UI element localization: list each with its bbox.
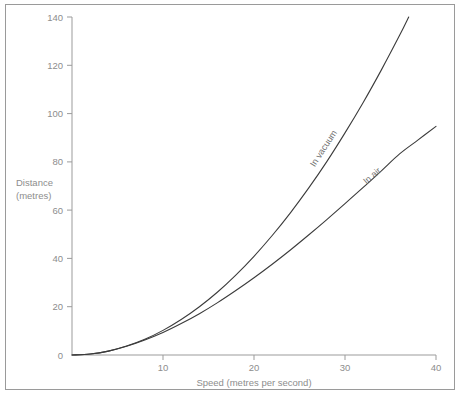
curve-label-in-vacuum: In vacuum — [308, 128, 339, 168]
y-tick-label-0: 0 — [58, 350, 63, 361]
y-tick-label-40: 40 — [52, 253, 63, 264]
x-tick-marks — [163, 355, 436, 360]
curve-in-air-plot — [72, 126, 436, 355]
distance-vs-speed-chart: 140 120 100 80 60 40 20 0 10 20 30 40 Di… — [0, 0, 466, 404]
x-tick-label-30: 30 — [340, 362, 351, 373]
x-tick-label-40: 40 — [431, 362, 442, 373]
y-tick-label-100: 100 — [47, 108, 63, 119]
x-axis-title: Speed (metres per second) — [196, 377, 311, 388]
y-tick-label-120: 120 — [47, 60, 63, 71]
x-tick-labels: 10 20 30 40 — [158, 362, 442, 373]
curve-label-in-air: In air — [361, 165, 383, 186]
x-tick-label-10: 10 — [158, 362, 169, 373]
x-tick-label-20: 20 — [249, 362, 260, 373]
y-tick-label-20: 20 — [52, 301, 63, 312]
y-axis-title-line2: (metres) — [16, 190, 51, 201]
y-tick-marks — [67, 17, 72, 307]
y-tick-label-60: 60 — [52, 205, 63, 216]
y-tick-label-80: 80 — [52, 156, 63, 167]
screenshot-root: 140 120 100 80 60 40 20 0 10 20 30 40 Di… — [0, 0, 466, 404]
curve-in-vacuum-plot — [72, 17, 409, 355]
y-tick-label-140: 140 — [47, 12, 63, 23]
y-axis-title-line1: Distance — [16, 177, 53, 188]
